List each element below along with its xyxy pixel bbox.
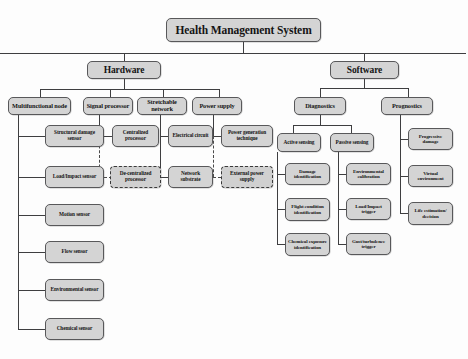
node-passive-sensing[interactable]: Passive sensing xyxy=(330,133,374,152)
node-signal-processor[interactable]: Signal processor xyxy=(83,97,133,115)
node-damage-identification[interactable]: Damage identification xyxy=(285,163,330,185)
node-health-management-system[interactable]: Health Management System xyxy=(166,18,321,42)
node-progressive-damage[interactable]: Progressive damage xyxy=(408,128,453,150)
connector-passive-child-3 xyxy=(338,244,346,245)
connector-hardware-bus xyxy=(40,89,219,90)
connector-ps-spine xyxy=(213,115,214,136)
connector-prognostics-child-2 xyxy=(400,176,408,177)
node-active-sensing[interactable]: Active sensing xyxy=(277,133,321,152)
connector-to-active-sensing xyxy=(293,125,294,133)
node-load-impact-sensor[interactable]: Load/Impact sensor xyxy=(45,166,104,188)
connector-diagnostics-stem xyxy=(320,115,321,125)
node-structural-damage-sensor[interactable]: Structural damage sensor xyxy=(45,125,104,147)
connector-hardware-down xyxy=(124,53,125,61)
connector-mfn-child-5 xyxy=(18,290,45,291)
connector-active-child-2 xyxy=(277,209,285,210)
node-hardware[interactable]: Hardware xyxy=(87,61,161,79)
connector-prognostics-spine xyxy=(400,115,401,213)
connector-prognostics-child-3 xyxy=(400,213,408,214)
connector-to-diagnostics xyxy=(320,88,321,97)
connector-to-signal-processor xyxy=(110,89,111,97)
connector-sn-child-1 xyxy=(160,136,168,137)
connector-software-bus xyxy=(320,88,408,89)
node-flow-sensor[interactable]: Flow sensor xyxy=(45,241,104,263)
node-load-impact-trigger[interactable]: Load/Impact trigger xyxy=(346,198,391,220)
node-power-supply[interactable]: Power supply xyxy=(192,97,242,115)
connector-main-bus xyxy=(0,53,466,54)
connector-to-prognostics xyxy=(408,88,409,97)
connector-mfn-child-3 xyxy=(18,215,45,216)
node-multifunctional-node[interactable]: Multifunctional node xyxy=(8,97,71,115)
connector-ps-dashed-spine xyxy=(213,136,214,177)
node-diagnostics[interactable]: Diagnostics xyxy=(294,97,346,115)
node-stretchable-network[interactable]: Stretchable network xyxy=(137,97,187,115)
connector-mfn-child-4 xyxy=(18,252,45,253)
connector-active-child-3 xyxy=(277,244,285,245)
connector-root-down xyxy=(243,42,244,53)
connector-mfn-child-1 xyxy=(18,136,45,137)
node-motion-sensor[interactable]: Motion sensor xyxy=(45,204,104,226)
connector-software-stem xyxy=(364,79,365,88)
connector-ps-child-2 xyxy=(213,177,221,178)
connector-ps-child-1 xyxy=(213,136,221,137)
node-electrical-circuit[interactable]: Electrical circuit xyxy=(168,125,213,147)
connector-mfn-spine xyxy=(18,115,19,330)
connector-to-stretchable-network xyxy=(163,89,164,97)
connector-sn-child-2 xyxy=(160,177,168,178)
connector-to-passive-sensing xyxy=(351,125,352,133)
node-network-substrate[interactable]: Network substrate xyxy=(168,166,213,188)
connector-mfn-child-6 xyxy=(18,329,45,330)
connector-software-down xyxy=(364,53,365,61)
connector-hardware-stem xyxy=(124,79,125,89)
connector-prognostics-child-1 xyxy=(400,139,408,140)
node-external-power-supply[interactable]: External power supply xyxy=(221,166,273,188)
node-environmental-calibration[interactable]: Environmental calibration xyxy=(346,163,391,185)
node-centralized-processor[interactable]: Centralized processor xyxy=(112,125,159,147)
node-prognostics[interactable]: Prognostics xyxy=(381,97,433,115)
node-chemical-sensor[interactable]: Chemical sensor xyxy=(45,318,104,340)
connector-active-spine xyxy=(277,152,278,244)
node-environmental-sensor[interactable]: Environmental sensor xyxy=(45,279,104,301)
node-chemical-exposure-identification[interactable]: Chemical exposure identification xyxy=(285,233,330,256)
connector-active-child-1 xyxy=(277,174,285,175)
connector-passive-child-2 xyxy=(338,209,346,210)
connector-mfn-child-2 xyxy=(18,177,45,178)
connector-to-power-supply xyxy=(219,89,220,97)
node-virtual-environment[interactable]: Virtual environment xyxy=(408,165,453,187)
node-flight-condition-identification[interactable]: Flight condition identification xyxy=(285,198,330,221)
connector-passive-child-1 xyxy=(338,174,346,175)
connector-diagnostics-bus xyxy=(293,125,351,126)
node-life-estimation-decision[interactable]: Life estimation/ decision xyxy=(408,202,453,225)
health-management-system-diagram: Health Management System Hardware Softwa… xyxy=(0,0,468,359)
node-software[interactable]: Software xyxy=(330,61,399,79)
connector-passive-spine xyxy=(338,152,339,244)
node-gust-turbulence-trigger[interactable]: Gust/turbulence trigger xyxy=(346,233,391,255)
connector-to-multifunctional-node xyxy=(40,89,41,97)
node-power-generation-technique[interactable]: Power generation technique xyxy=(221,125,273,147)
node-de-centralized-processor[interactable]: De-centralized processor xyxy=(110,166,161,188)
